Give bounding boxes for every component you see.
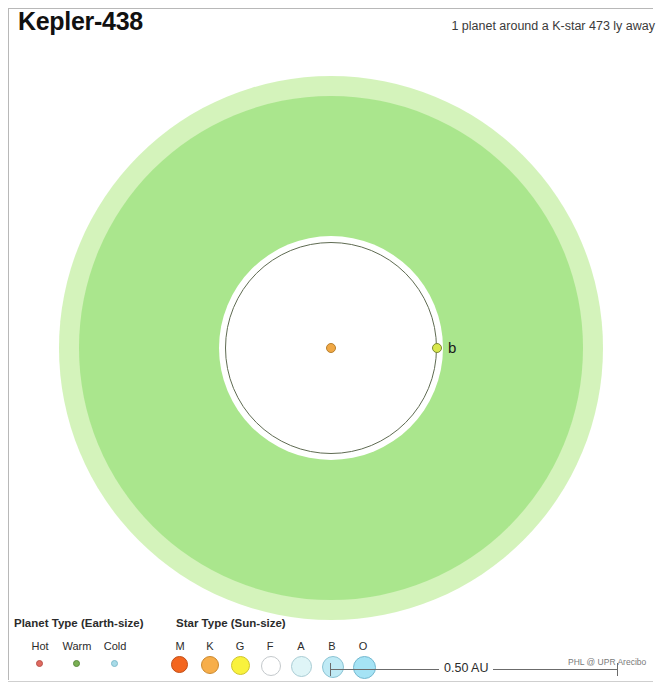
star-legend-swatch-g (231, 656, 250, 675)
star-legend-swatch-b (322, 656, 344, 678)
planet-legend-label-hot: Hot (26, 640, 54, 652)
star-legend-swatch-k (201, 656, 219, 674)
star-legend-label-f: F (262, 640, 278, 652)
star-legend-label-a: A (293, 640, 309, 652)
scale-bar-cap-left (330, 663, 331, 676)
orbit-stage: b (0, 0, 661, 690)
planet-legend-label-warm: Warm (58, 640, 96, 652)
star-legend-swatch-m (171, 656, 188, 673)
star-legend-swatch-a (291, 656, 312, 677)
star-legend-label-k: K (202, 640, 218, 652)
planet-legend-label-cold: Cold (99, 640, 131, 652)
star-legend-label-g: G (232, 640, 248, 652)
planet-legend-swatch-cold (111, 660, 118, 667)
planet-b[interactable] (432, 343, 442, 353)
star-legend-title: Star Type (Sun-size) (176, 617, 286, 629)
host-star[interactable] (326, 343, 336, 353)
star-legend-swatch-f (261, 656, 281, 676)
planet-b-label: b (448, 339, 456, 356)
star-legend-label-b: B (324, 640, 340, 652)
star-legend-label-m: M (172, 640, 188, 652)
star-legend-label-o: O (355, 640, 371, 652)
planet-legend-swatch-hot (36, 660, 43, 667)
credit-text: PHL @ UPR Arecibo (568, 657, 646, 667)
planet-legend-title: Planet Type (Earth-size) (14, 617, 144, 629)
scale-bar-label: 0.50 AU (439, 661, 493, 675)
exoplanet-system-diagram: Kepler-438 1 planet around a K-star 473 … (0, 0, 661, 690)
planet-legend-swatch-warm (73, 660, 80, 667)
star-legend-swatch-o (353, 656, 376, 679)
